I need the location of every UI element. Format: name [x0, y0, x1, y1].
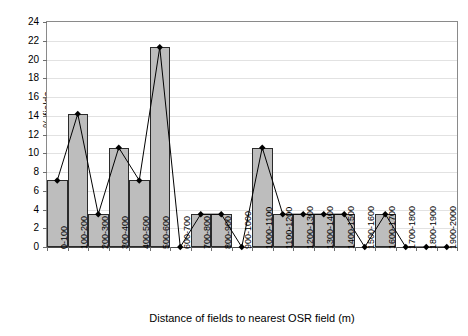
x-tick-label: 500-600: [162, 216, 171, 249]
chart-figure: % fields 024681012141618202224 0-100100-…: [0, 0, 468, 336]
y-tick-label: 12: [28, 130, 39, 140]
x-tick-label: 1100-1200: [285, 207, 294, 249]
x-tick-label: 900-1000: [244, 211, 253, 249]
x-tick-label: 1300-1400: [326, 206, 335, 249]
y-tick-label: 24: [28, 17, 39, 27]
x-tick-label: 1200-1300: [306, 206, 315, 249]
x-tick-label: 0-100: [60, 226, 69, 249]
y-tick-label: 16: [28, 92, 39, 102]
x-tick-label: 1800-1900: [429, 206, 438, 249]
x-tick-label: 1900-2000: [449, 206, 458, 249]
y-axis-tick-labels: 024681012141618202224: [0, 0, 42, 336]
x-tick-label: 400-500: [142, 216, 151, 249]
data-point-marker: [75, 111, 81, 117]
x-axis-title: Distance of fields to nearest OSR field …: [46, 312, 458, 324]
x-tick-label: 1500-1600: [367, 206, 376, 249]
x-tick-label: 1400-1500: [347, 206, 356, 249]
y-tick-label: 0: [33, 242, 39, 252]
y-tick-label: 4: [33, 205, 39, 215]
data-point-marker: [54, 177, 60, 183]
y-tick-label: 10: [28, 148, 39, 158]
x-tick-label: 1000-1100: [265, 207, 274, 249]
x-tick-label: 1700-1800: [408, 206, 417, 249]
x-tick-label: 700-800: [203, 216, 212, 249]
y-tick-label: 6: [33, 186, 39, 196]
data-point-marker: [157, 44, 163, 50]
data-point-marker: [136, 177, 142, 183]
y-tick-label: 14: [28, 111, 39, 121]
x-tick-label: 300-400: [121, 216, 130, 249]
x-axis-tick-labels: 0-100100-200200-300300-400400-500500-600…: [46, 249, 458, 307]
x-tick-label: 200-300: [101, 216, 110, 249]
y-tick-label: 22: [28, 36, 39, 46]
y-tick-label: 18: [28, 73, 39, 83]
y-tick-label: 20: [28, 55, 39, 65]
x-tick-label: 1600-1700: [388, 206, 397, 249]
data-point-marker: [116, 144, 122, 150]
x-tick-label: 800-900: [224, 216, 233, 249]
x-tick-label: 600-700: [183, 216, 192, 249]
data-point-marker: [259, 144, 265, 150]
y-tick-label: 2: [33, 223, 39, 233]
y-tick-label: 8: [33, 167, 39, 177]
x-tick-label: 100-200: [80, 216, 89, 249]
